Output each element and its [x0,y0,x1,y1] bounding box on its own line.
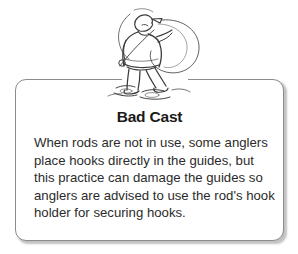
body-line: anglers are advised to use the rod's hoo… [34,187,269,205]
info-card: Bad Cast When rods are not in use, some … [15,79,284,241]
card-body: When rods are not in use, some anglers p… [34,134,269,222]
page-root: Bad Cast When rods are not in use, some … [0,0,298,254]
card-title: Bad Cast [16,108,283,126]
body-line: holder for securing hooks. [34,204,269,222]
body-line: place hooks directly in the guides, but [34,152,269,170]
angler-bad-cast-icon [96,4,212,100]
body-line: When rods are not in use, some anglers [34,134,269,152]
body-line: this practice can damage the guides so [34,169,269,187]
